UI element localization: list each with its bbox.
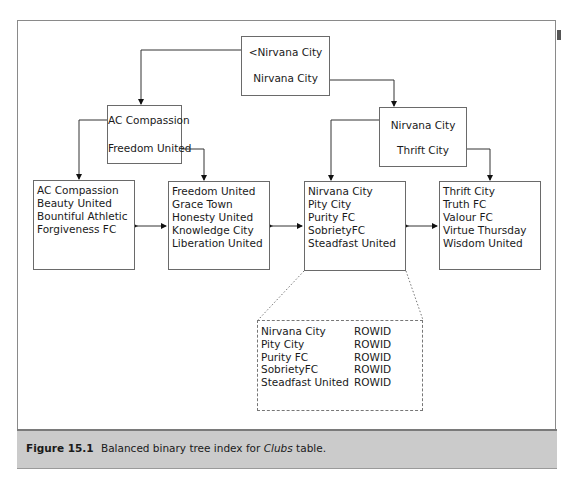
- detail-rowid: ROWID: [354, 338, 391, 351]
- detail-row: Purity FC ROWID: [261, 351, 422, 364]
- leaf-entry: Purity FC: [308, 211, 405, 224]
- leaf-entry: Freedom United: [172, 185, 269, 198]
- leaf-node-1: AC Compassion Beauty United Bountiful At…: [33, 180, 135, 270]
- detail-key: Purity FC: [261, 351, 354, 364]
- leaf-entry: Beauty United: [37, 197, 134, 210]
- leaf-entry: Truth FC: [443, 198, 540, 211]
- detail-row: Pity City ROWID: [261, 338, 422, 351]
- leaf-entry: AC Compassion: [37, 184, 134, 197]
- leaf-entry: Valour FC: [443, 211, 540, 224]
- right-branch-key-2: Thrift City: [380, 144, 466, 157]
- leaf-entry: Wisdom United: [443, 237, 540, 250]
- leaf-entry: Liberation United: [172, 237, 269, 250]
- left-branch-node: AC Compassion Freedom United: [107, 105, 182, 164]
- detail-rowid: ROWID: [354, 325, 391, 338]
- caption-table-name: Clubs: [264, 442, 293, 454]
- detail-row: Steadfast United ROWID: [261, 376, 422, 389]
- detail-row: Nirvana City ROWID: [261, 325, 422, 338]
- leaf-node-2: Freedom United Grace Town Honesty United…: [168, 181, 270, 270]
- leaf-entry: Knowledge City: [172, 224, 269, 237]
- right-branch-node: Nirvana City Thrift City: [379, 107, 467, 167]
- caption-text-end: table.: [293, 442, 326, 454]
- caption-text: Balanced binary tree index for: [101, 442, 264, 454]
- right-branch-key-1: Nirvana City: [380, 119, 466, 132]
- leaf-entry: Virtue Thursday: [443, 224, 540, 237]
- left-branch-key-1: AC Compassion: [108, 114, 181, 127]
- leaf-entry: Bountiful Athletic: [37, 210, 134, 223]
- detail-rowid: ROWID: [354, 376, 391, 389]
- leaf-entry: Honesty United: [172, 211, 269, 224]
- detail-key: Pity City: [261, 338, 354, 351]
- left-branch-key-2: Freedom United: [108, 142, 181, 155]
- leaf-entry: Forgiveness FC: [37, 223, 134, 236]
- figure-label: Figure 15.1: [26, 442, 94, 454]
- root-key: Nirvana City: [242, 72, 329, 85]
- leaf-entry: Thrift City: [443, 185, 540, 198]
- detail-key: SobrietyFC: [261, 363, 354, 376]
- detail-key: Nirvana City: [261, 325, 354, 338]
- leaf-entry: Pity City: [308, 198, 405, 211]
- detail-key: Steadfast United: [261, 376, 354, 389]
- leaf-entry: Steadfast United: [308, 237, 405, 250]
- leaf-entry: Grace Town: [172, 198, 269, 211]
- leaf-detail-box: Nirvana City ROWID Pity City ROWID Purit…: [257, 320, 423, 411]
- figure-caption: Figure 15.1 Balanced binary tree index f…: [17, 429, 557, 469]
- leaf-node-4: Thrift City Truth FC Valour FC Virtue Th…: [439, 181, 541, 270]
- detail-rowid: ROWID: [354, 351, 391, 364]
- detail-row: SobrietyFC ROWID: [261, 363, 422, 376]
- leaf-entry: SobrietyFC: [308, 224, 405, 237]
- root-key-lt: <Nirvana City: [242, 46, 329, 59]
- root-node: <Nirvana City Nirvana City: [241, 36, 330, 96]
- leaf-node-3: Nirvana City Pity City Purity FC Sobriet…: [304, 181, 406, 271]
- leaf-entry: Nirvana City: [308, 185, 405, 198]
- detail-rowid: ROWID: [354, 363, 391, 376]
